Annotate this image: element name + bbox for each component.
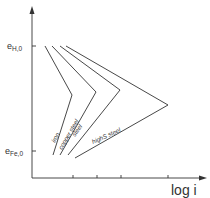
evans-diagram: eH,0 eFe,0 log i ironcopper steelsteelhi…	[0, 0, 210, 198]
y-axis-arrow-icon	[30, 6, 35, 14]
y-label-eh0: eH,0	[7, 41, 23, 52]
curve-label-highs-steel: highS steel	[91, 126, 122, 145]
curve-highs-steel	[66, 46, 168, 158]
y-label-efe0: eFe,0	[5, 146, 23, 157]
x-axis-arrow-icon	[199, 176, 207, 181]
curves: ironcopper steelsteelhighS steel	[45, 46, 168, 158]
x-axis-label: log i	[171, 182, 197, 198]
